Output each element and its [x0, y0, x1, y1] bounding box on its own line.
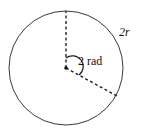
arc-length-label: 2r: [119, 25, 130, 39]
diagonal-radius-line: [66, 68, 117, 96]
center-point: [64, 66, 68, 70]
angle-label: 2 rad: [78, 54, 102, 68]
circle-diagram: 2 rad 2r: [0, 0, 147, 139]
